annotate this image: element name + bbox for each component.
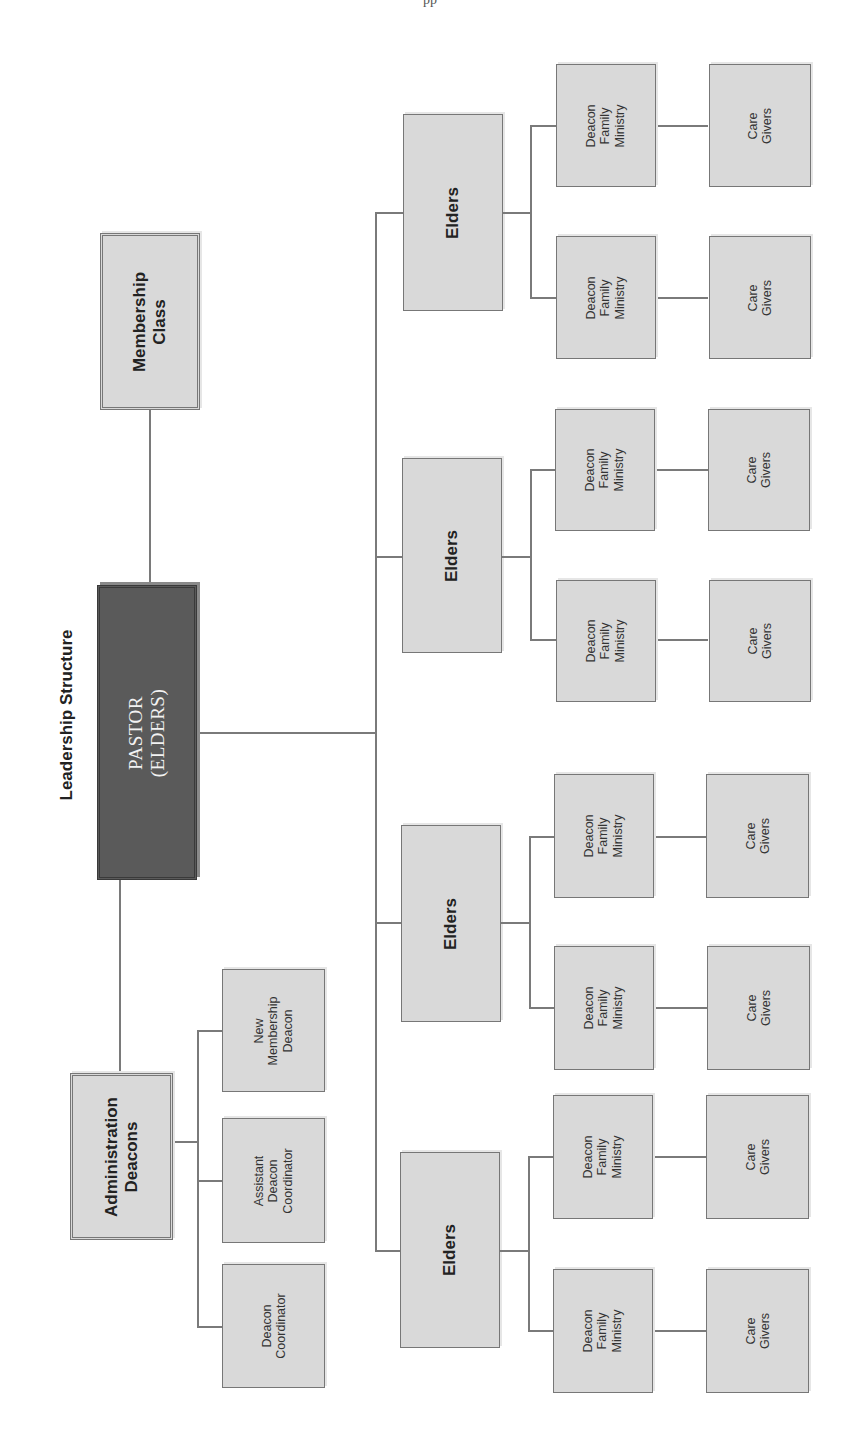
box-text-line: Care <box>745 452 759 488</box>
box-text-line: Care <box>743 818 757 854</box>
box-text-line: Care <box>743 1313 757 1349</box>
connector-care-4b <box>653 1330 707 1332</box>
connector-spine-elders-4 <box>375 1250 402 1252</box>
pastor-box: PASTOR (ELDERS) <box>97 585 197 880</box>
box-text-line: Givers <box>760 279 774 315</box>
box-text-line: Family <box>596 1135 610 1178</box>
box-text-line: Ministry <box>612 448 626 491</box>
connector-elders-2-subspine <box>502 556 532 558</box>
box-text-line: Family <box>599 276 613 319</box>
box-text-line: Givers <box>760 623 774 659</box>
box-text-line: Family <box>597 814 611 857</box>
connector-dfm-1a <box>530 125 556 127</box>
admin-subspine <box>197 1030 199 1327</box>
connector-elders-4-subspine <box>500 1250 530 1252</box>
box-text-line: Family <box>597 986 611 1029</box>
box-text-line: Ministry <box>610 1135 624 1178</box>
connector-spine-elders-3 <box>375 922 402 924</box>
connector-dfm-3b <box>529 1007 555 1009</box>
care-givers-box: Care Givers <box>707 946 810 1070</box>
connector-admin-child-1 <box>197 1030 222 1032</box>
connector-spine-elders-2 <box>375 556 403 558</box>
connector-dfm-2a <box>530 469 556 471</box>
box-text-line: Givers <box>758 1139 772 1175</box>
box-text-line: Deacon <box>259 1293 273 1358</box>
box-text-line: Deacon <box>584 619 598 662</box>
deacon-family-ministry-box: Deacon Family Ministry <box>554 946 654 1070</box>
box-text-line: Deacon <box>266 1148 280 1213</box>
elders-1-subspine <box>530 125 532 299</box>
elders-4-subspine <box>528 1156 530 1332</box>
connector-admin-child-2 <box>197 1180 222 1182</box>
connector-admin-child-3 <box>197 1326 222 1328</box>
connector-dfm-1b <box>530 297 556 299</box>
elders-3-subspine <box>529 836 531 1008</box>
connector-elders-1-subspine <box>503 212 532 214</box>
connector-dfm-4b <box>528 1330 554 1332</box>
deacon-family-ministry-box: Deacon Family Ministry <box>555 409 655 531</box>
box-text-line: Care <box>744 990 758 1026</box>
elders-label: Elders <box>441 898 461 950</box>
deacon-family-ministry-box: Deacon Family Ministry <box>556 580 656 702</box>
deacon-family-ministry-box: Deacon Family Ministry <box>554 774 654 898</box>
box-text-line: Deacon <box>581 1309 595 1352</box>
connector-membership-pastor <box>149 410 151 585</box>
care-givers-box: Care Givers <box>706 1269 809 1393</box>
box-text-line: Coordinator <box>281 1148 295 1213</box>
box-text-line: Care <box>743 1139 757 1175</box>
box-text-line: Deacon <box>584 104 598 147</box>
connector-care-1b <box>656 297 708 299</box>
box-text-line: Deacon <box>581 1135 595 1178</box>
box-text-line: Deacon <box>583 448 597 491</box>
box-text-line: Deacon <box>584 276 598 319</box>
connector-care-1a <box>656 125 708 127</box>
box-text-line: Deacon <box>281 996 295 1065</box>
care-givers-box: Care Givers <box>706 1095 809 1219</box>
box-text-line: Care <box>746 623 760 659</box>
care-givers-box: Care Givers <box>706 774 809 898</box>
box-text-line: Ministry <box>611 814 625 857</box>
connector-care-3a <box>654 836 707 838</box>
deacon-family-ministry-box: Deacon Family Ministry <box>553 1095 653 1219</box>
pastor-line1: PASTOR <box>125 688 147 776</box>
administration-line1: Administration <box>101 1097 121 1217</box>
box-text-line: Care <box>746 279 760 315</box>
box-text-line: Family <box>599 104 613 147</box>
administration-line2: Deacons <box>122 1097 142 1217</box>
care-givers-box: Care Givers <box>708 409 810 531</box>
connector-pastor-admin <box>119 880 121 1073</box>
assistant-deacon-coordinator-box: Assistant Deacon Coordinator <box>222 1118 325 1243</box>
elders-spine <box>375 212 377 1252</box>
administration-deacons-box: Administration Deacons <box>70 1073 173 1240</box>
elders-label: Elders <box>443 187 463 239</box>
box-text-line: Ministry <box>613 276 627 319</box>
box-text-line: Deacon <box>582 986 596 1029</box>
connector-care-2b <box>655 639 708 641</box>
box-text-line: Care <box>746 107 760 143</box>
box-text-line: Membership <box>266 996 280 1065</box>
connector-pastor-elders <box>197 732 377 734</box>
box-text-line: Ministry <box>610 1309 624 1352</box>
box-text-line: Ministry <box>611 986 625 1029</box>
diagram-title: Leadership Structure <box>52 610 82 820</box>
box-text-line: Ministry <box>613 104 627 147</box>
elders-label: Elders <box>440 1224 460 1276</box>
membership-class-line2: Class <box>150 271 170 371</box>
page-header-fragment: pp <box>400 0 460 8</box>
membership-class-line1: Membership <box>130 271 150 371</box>
elders-2-subspine <box>530 469 532 641</box>
box-text-line: Family <box>596 1309 610 1352</box>
connector-dfm-4a <box>528 1156 554 1158</box>
box-text-line: Family <box>599 619 613 662</box>
care-givers-box: Care Givers <box>709 236 811 359</box>
connector-dfm-3a <box>529 836 555 838</box>
box-text-line: Deacon <box>582 814 596 857</box>
box-text-line: Givers <box>759 990 773 1026</box>
box-text-line: Assistant <box>252 1148 266 1213</box>
box-text-line: New <box>252 996 266 1065</box>
box-text-line: Givers <box>759 452 773 488</box>
connector-dfm-2b <box>530 639 556 641</box>
box-text-line: Ministry <box>613 619 627 662</box>
connector-care-4a <box>653 1156 707 1158</box>
box-text-line: Givers <box>758 1313 772 1349</box>
